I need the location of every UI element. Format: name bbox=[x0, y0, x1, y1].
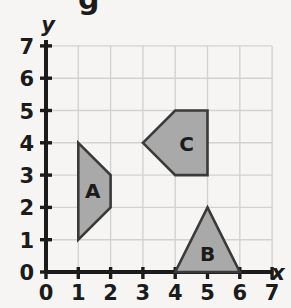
y-tick-label: 5 bbox=[19, 100, 34, 124]
y-tick-label: 0 bbox=[19, 261, 34, 285]
x-tick-label: 0 bbox=[39, 281, 54, 305]
x-tick-label: 1 bbox=[71, 281, 86, 305]
y-axis-label: y bbox=[41, 13, 56, 37]
graph-canvas: 01234567 01234567 x y ABC bbox=[0, 0, 291, 308]
x-tick-label: 6 bbox=[232, 281, 247, 305]
coordinate-plane-figure: g 01234567 01234567 x y ABC bbox=[0, 0, 291, 308]
y-tick-label: 7 bbox=[19, 35, 34, 59]
y-tick-label: 2 bbox=[19, 196, 34, 220]
x-tick-label: 2 bbox=[103, 281, 118, 305]
x-tick-label: 3 bbox=[136, 281, 151, 305]
y-tick-label: 3 bbox=[19, 164, 34, 188]
x-tick-labels: 01234567 bbox=[39, 281, 280, 305]
y-tick-label: 1 bbox=[19, 229, 34, 253]
x-tick-label: 5 bbox=[200, 281, 215, 305]
y-tick-label: 6 bbox=[19, 67, 34, 91]
plotted-shapes bbox=[78, 111, 240, 273]
shape-c bbox=[143, 111, 208, 176]
shape-label-b: B bbox=[200, 242, 215, 266]
shape-label-a: A bbox=[85, 179, 101, 203]
x-axis-label: x bbox=[270, 261, 286, 285]
axis-ticks bbox=[40, 46, 272, 279]
shape-label-c: C bbox=[179, 132, 194, 156]
y-tick-labels: 01234567 bbox=[19, 35, 34, 285]
y-tick-label: 4 bbox=[19, 132, 34, 156]
x-tick-label: 4 bbox=[168, 281, 183, 305]
